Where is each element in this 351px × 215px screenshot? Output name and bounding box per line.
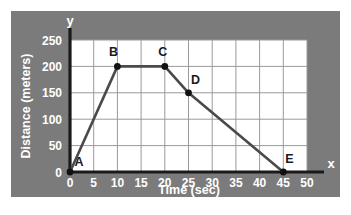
x-tick-label: 45	[277, 176, 291, 190]
point-label-b: B	[109, 45, 118, 59]
y-tick-label: 150	[42, 86, 62, 100]
point-label-d: D	[191, 73, 200, 87]
point-label-c: C	[158, 45, 167, 59]
x-tick-label: 40	[253, 176, 267, 190]
y-tick-label: 200	[42, 60, 62, 74]
point-label-e: E	[285, 152, 293, 166]
data-point-marker	[185, 89, 192, 96]
y-tick-label: 250	[42, 34, 62, 48]
y-tick-label: 100	[42, 113, 62, 127]
data-point-marker	[161, 63, 168, 70]
x-tick-label: 0	[67, 176, 74, 190]
data-point-marker	[67, 169, 74, 176]
chart-panel: y x 050100150200250 05101520253035404550…	[11, 11, 340, 197]
point-label-a: A	[74, 155, 83, 169]
distance-time-line-chart: y x 050100150200250 05101520253035404550…	[11, 11, 340, 197]
y-axis-tick-labels: 050100150200250	[42, 34, 62, 180]
x-tick-label: 5	[90, 176, 97, 190]
data-point-marker	[280, 169, 287, 176]
y-axis-letter: y	[66, 13, 74, 28]
x-axis-title: Time (sec)	[158, 183, 220, 197]
y-tick-label: 50	[49, 139, 63, 153]
x-axis-letter: x	[327, 156, 335, 171]
x-tick-label: 50	[300, 176, 314, 190]
x-tick-label: 10	[111, 176, 125, 190]
y-axis-title: Distance (meters)	[19, 54, 33, 159]
y-tick-label: 0	[55, 166, 62, 180]
x-tick-label: 15	[134, 176, 148, 190]
x-tick-label: 35	[229, 176, 243, 190]
data-point-marker	[114, 63, 121, 70]
